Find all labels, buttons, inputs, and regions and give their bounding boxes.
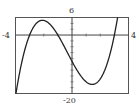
x-min-label: -4 — [2, 32, 10, 40]
y-min-label: -20 — [63, 97, 76, 105]
chart-plot-area — [0, 0, 137, 109]
y-max-label: 6 — [69, 7, 74, 15]
function-curve — [16, 18, 118, 94]
x-max-label: 4 — [131, 32, 136, 40]
